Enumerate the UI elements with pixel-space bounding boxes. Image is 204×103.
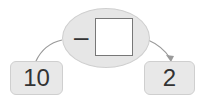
start-number-box: 10 [10,61,63,95]
minus-operator: – [74,22,88,52]
start-number: 10 [23,64,50,92]
answer-blank-box[interactable] [95,18,133,56]
result-number-box: 2 [144,61,195,95]
result-number: 2 [163,64,176,92]
